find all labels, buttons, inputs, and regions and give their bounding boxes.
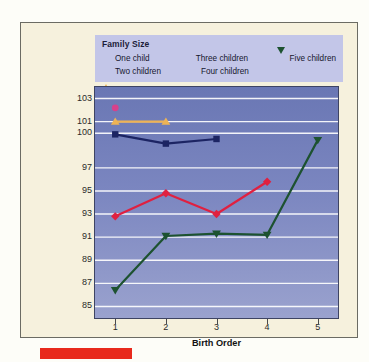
legend-title: Family Size bbox=[102, 39, 336, 49]
data-point-marker bbox=[111, 287, 120, 294]
y-tick-label: 101 bbox=[77, 116, 92, 126]
data-point-marker bbox=[313, 137, 322, 144]
y-tick-label: 103 bbox=[77, 93, 92, 103]
legend-label-one-child: One child bbox=[115, 54, 150, 63]
x-tick-mark bbox=[166, 319, 167, 324]
y-tick-label: 85 bbox=[82, 300, 92, 310]
y-tick-label: 93 bbox=[82, 208, 92, 218]
y-tick-label: 87 bbox=[82, 277, 92, 287]
plot-area bbox=[94, 86, 339, 319]
data-point-marker bbox=[163, 140, 169, 146]
x-tick-mark bbox=[267, 319, 268, 324]
x-tick-mark bbox=[217, 319, 218, 324]
legend-item-one-child[interactable]: One child bbox=[102, 54, 183, 63]
diamond-marker-icon bbox=[188, 67, 197, 76]
chart-canvas bbox=[95, 87, 338, 318]
x-tick-mark bbox=[318, 319, 319, 324]
legend-row-2: Two children Four children bbox=[102, 65, 336, 77]
footer-red-bar bbox=[40, 348, 132, 359]
legend-label-five-children: Five children bbox=[290, 54, 336, 63]
circle-marker-icon bbox=[102, 54, 111, 63]
y-tick-label: 97 bbox=[82, 162, 92, 172]
y-tick-label: 100 bbox=[77, 127, 92, 137]
y-tick-label: 95 bbox=[82, 185, 92, 195]
x-tick-mark bbox=[115, 319, 116, 324]
y-tick-label: 89 bbox=[82, 254, 92, 264]
legend-item-two-children[interactable]: Two children bbox=[102, 67, 188, 76]
y-tick-label: 91 bbox=[82, 231, 92, 241]
triangle-down-marker-icon bbox=[277, 54, 286, 63]
data-point-marker bbox=[112, 104, 119, 111]
legend-row-1: One child Three children Five children bbox=[102, 52, 336, 64]
legend-item-four-children[interactable]: Four children bbox=[188, 67, 249, 76]
plot-area-wrapper: Children's Mean Intelligence Test Score … bbox=[94, 86, 339, 319]
x-axis-tick-labels: 12345 bbox=[94, 322, 339, 336]
legend-item-three-children[interactable]: Three children bbox=[183, 54, 277, 63]
chart-figure-panel: Family Size One child Three children Fiv… bbox=[20, 22, 358, 338]
series-line bbox=[115, 182, 267, 217]
square-marker-icon bbox=[183, 54, 192, 63]
legend-item-five-children[interactable]: Five children bbox=[277, 54, 336, 63]
legend-label-three-children: Three children bbox=[196, 54, 248, 63]
chart-legend: Family Size One child Three children Fiv… bbox=[95, 35, 343, 82]
legend-label-two-children: Two children bbox=[115, 67, 161, 76]
triangle-up-marker-icon bbox=[102, 67, 111, 76]
data-point-marker bbox=[112, 131, 118, 137]
y-axis-tick-labels: 10310110097959391898785 bbox=[64, 86, 92, 319]
data-point-marker bbox=[213, 136, 219, 142]
x-axis-title: Birth Order bbox=[94, 338, 339, 348]
legend-label-four-children: Four children bbox=[201, 67, 249, 76]
